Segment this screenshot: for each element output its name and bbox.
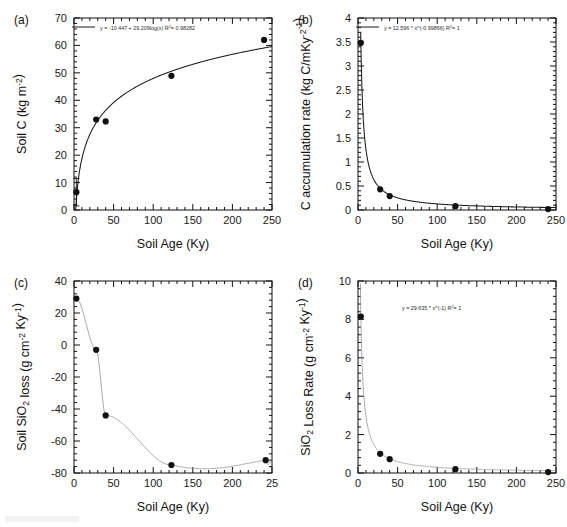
y-tick-label: 60: [55, 39, 67, 51]
y-tick-label: 0: [345, 204, 351, 216]
x-tick-label: 150: [184, 214, 202, 226]
x-tick-label: 200: [507, 214, 525, 226]
y-tick-label: 4: [345, 390, 351, 402]
fit-curve: [361, 32, 556, 208]
panel-b-plot: (b)05010015020025000.511.522.533.54Soil …: [284, 0, 567, 263]
x-tick-label: 100: [428, 477, 446, 489]
y-tick-label: 0.5: [336, 180, 351, 192]
y-tick-label: 1: [345, 156, 351, 168]
x-tick-label: 100: [144, 214, 162, 226]
y-tick-label: 20: [55, 307, 67, 319]
y-tick-label: 40: [55, 94, 67, 106]
y-tick-label: 8: [345, 313, 351, 325]
x-tick-label: 100: [428, 214, 446, 226]
data-point: [93, 347, 99, 353]
x-tick-label: 0: [355, 477, 361, 489]
x-tick-label: 50: [107, 477, 119, 489]
panel-d-plot: (d)0501001502002500246810Soil Age (Ky)Si…: [284, 263, 567, 526]
panel-b: (b)05010015020025000.511.522.533.54Soil …: [284, 0, 567, 263]
fit-equation-text: y = 29.635 * x^(-1) R2= 1: [402, 304, 461, 311]
y-tick-label: 50: [55, 67, 67, 79]
y-tick-label: 6: [345, 352, 351, 364]
y-axis-label: Soil C (kg m-2): [11, 74, 29, 154]
panel-letter: (d): [298, 276, 313, 290]
data-series: [358, 313, 551, 475]
y-tick-label: 0: [345, 467, 351, 479]
data-point: [261, 37, 267, 43]
data-point: [452, 203, 458, 209]
data-point: [387, 193, 393, 199]
data-series: [73, 37, 267, 206]
x-tick-label: 150: [468, 477, 486, 489]
data-point: [168, 462, 174, 468]
y-tick-label: 3: [345, 60, 351, 72]
y-tick-label: 3.5: [336, 36, 351, 48]
data-point: [387, 456, 393, 462]
data-series: [73, 296, 268, 469]
data-point: [103, 412, 109, 418]
y-tick-label: -40: [51, 403, 67, 415]
data-point: [452, 466, 458, 472]
x-tick-label: 0: [71, 477, 77, 489]
x-tick-label: 50: [391, 214, 403, 226]
x-tick-label: 50: [391, 477, 403, 489]
panel-letter: (a): [14, 13, 29, 27]
y-tick-label: 1.5: [336, 132, 351, 144]
data-series: [358, 40, 552, 212]
x-tick-label: 25: [266, 477, 278, 489]
data-point: [377, 451, 383, 457]
y-axis-ticks: 010203040506070: [55, 12, 272, 216]
panel-d: (d)0501001502002500246810Soil Age (Ky)Si…: [284, 263, 567, 526]
x-axis-label: Soil Age (Ky): [137, 500, 209, 514]
panel-c-plot: (c)05010015020025-80-60-40-2002040Soil A…: [0, 263, 283, 526]
x-tick-label: 0: [355, 214, 361, 226]
figure-canvas: (a)050100150200250010203040506070Soil Ag…: [0, 0, 567, 527]
y-axis-label: SiO2 Loss Rate (g cm-2 Ky-1): [294, 298, 316, 455]
fit-curve: [74, 295, 271, 468]
page-artifact: [5, 516, 79, 522]
y-tick-label: 0: [61, 339, 67, 351]
y-axis-ticks: -80-60-40-2002040: [51, 275, 272, 479]
plot-frame: [74, 18, 272, 210]
fit-curve: [76, 47, 272, 210]
data-point: [263, 457, 269, 463]
equation-legend: y = 12.596 * x^(-0.99866) R2= 1: [356, 24, 460, 31]
x-axis-ticks: 050100150200250: [355, 281, 565, 489]
x-axis-label: Soil Age (Ky): [421, 500, 493, 514]
data-point: [103, 118, 109, 124]
x-tick-label: 150: [184, 477, 202, 489]
fit-equation-text: y = -10.447 + 29.209log(x) R2= 0.98282: [100, 24, 195, 31]
y-tick-label: -20: [51, 371, 67, 383]
panel-a: (a)050100150200250010203040506070Soil Ag…: [0, 0, 283, 263]
data-point: [358, 313, 364, 319]
panel-a-plot: (a)050100150200250010203040506070Soil Ag…: [0, 0, 283, 263]
x-axis-ticks: 050100150200250: [71, 18, 281, 226]
data-point: [168, 73, 174, 79]
y-tick-label: 10: [55, 177, 67, 189]
data-point: [73, 189, 79, 195]
plot-frame: [74, 281, 272, 473]
data-point: [73, 296, 79, 302]
y-tick-label: 2.5: [336, 84, 351, 96]
x-tick-label: 200: [223, 477, 241, 489]
y-tick-label: 40: [55, 275, 67, 287]
data-point: [545, 206, 551, 212]
y-tick-label: -60: [51, 435, 67, 447]
x-tick-label: 200: [507, 477, 525, 489]
x-tick-label: 250: [547, 477, 565, 489]
x-axis-ticks: 050100150200250: [355, 18, 565, 226]
y-tick-label: 0: [61, 204, 67, 216]
y-tick-label: 4: [345, 12, 351, 24]
y-tick-label: 2: [345, 108, 351, 120]
x-tick-label: 0: [71, 214, 77, 226]
y-axis-label: C accumulation rate (kg C/mKy-2-1): [291, 18, 313, 210]
panel-letter: (c): [14, 276, 28, 290]
x-axis-ticks: 05010015020025: [71, 281, 278, 489]
data-point: [545, 469, 551, 475]
data-point: [358, 40, 364, 46]
panel-c: (c)05010015020025-80-60-40-2002040Soil A…: [0, 263, 283, 526]
y-tick-label: 70: [55, 12, 67, 24]
y-tick-label: 2: [345, 429, 351, 441]
x-tick-label: 200: [223, 214, 241, 226]
data-point: [377, 186, 383, 192]
